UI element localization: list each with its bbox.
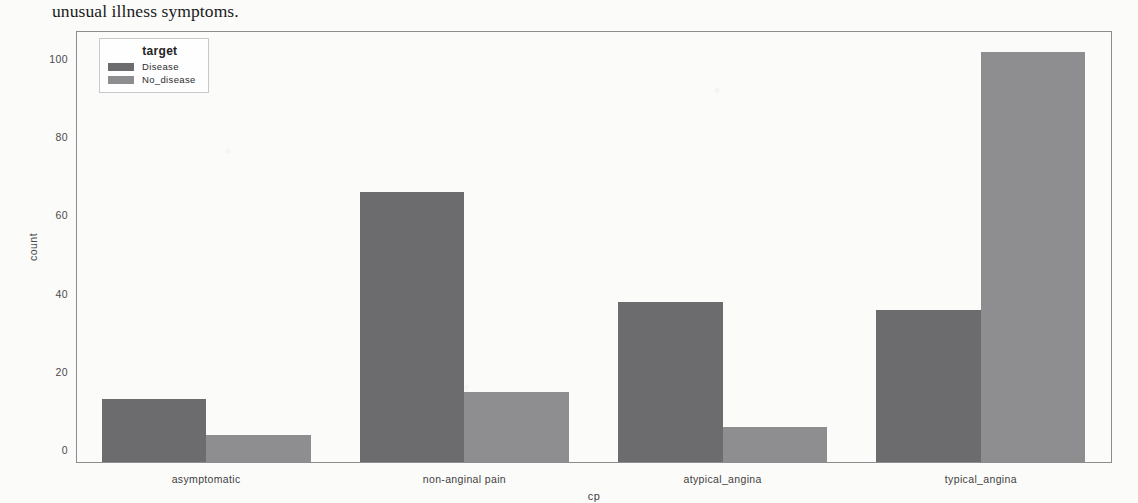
y-tick-label: 0	[62, 444, 68, 456]
y-tick-label: 80	[56, 131, 68, 143]
legend-entry: Disease	[108, 61, 196, 72]
x-axis-label: cp	[588, 490, 600, 502]
chart-figure: count cp 020406080100 asymptomaticnon-an…	[76, 31, 1112, 463]
chart-legend: target DiseaseNo_disease	[99, 38, 209, 93]
y-tick-label: 20	[56, 366, 68, 378]
bar-no_disease-3	[981, 52, 1086, 462]
x-tick-label: non-anginal pain	[423, 473, 506, 485]
y-axis-label: count	[27, 233, 39, 261]
bar-disease-3	[876, 310, 981, 462]
y-tick-label: 40	[56, 288, 68, 300]
bar-no_disease-2	[723, 427, 828, 462]
legend-label: No_disease	[142, 74, 196, 85]
scanned-page: unusual illness symptoms. count cp 02040…	[0, 0, 1138, 503]
bar-disease-2	[618, 302, 723, 462]
legend-swatch-icon	[108, 76, 134, 84]
bar-no_disease-0	[206, 435, 311, 462]
bar-disease-1	[360, 192, 465, 462]
bar-no_disease-1	[464, 392, 569, 462]
legend-label: Disease	[142, 61, 179, 72]
document-body-text: unusual illness symptoms.	[52, 1, 239, 22]
x-tick-label: asymptomatic	[172, 473, 241, 485]
legend-title: target	[108, 44, 196, 58]
x-tick-label: typical_angina	[945, 473, 1017, 485]
plot-area: count cp 020406080100 asymptomaticnon-an…	[77, 32, 1111, 462]
legend-entries: DiseaseNo_disease	[108, 61, 196, 85]
x-tick-label: atypical_angina	[684, 473, 762, 485]
y-tick-label: 100	[49, 53, 68, 65]
legend-entry: No_disease	[108, 74, 196, 85]
bar-disease-0	[102, 399, 207, 462]
legend-swatch-icon	[108, 63, 134, 71]
y-tick-label: 60	[56, 209, 68, 221]
